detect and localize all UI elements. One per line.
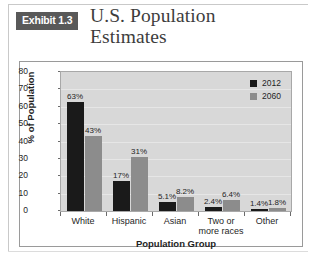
bar-2060-3 — [223, 200, 240, 211]
x-axis-label-4: Other — [244, 216, 290, 226]
legend-item-2060: 2060 — [250, 91, 281, 101]
y-tick-label: 80 — [0, 66, 28, 76]
bar-data-label: 8.2% — [172, 187, 199, 196]
plot-area: 63%43%17%31%5.1%8.2%2.4%6.4%1.4%1.8% 201… — [60, 71, 292, 212]
bar-2012-1 — [113, 181, 130, 211]
y-tick-label: 10 — [0, 188, 28, 198]
bar-2060-4 — [269, 208, 286, 211]
gridline — [61, 124, 291, 125]
bar-2012-4 — [251, 209, 268, 211]
legend-label: 2060 — [262, 91, 281, 101]
bar-data-label: 43% — [80, 126, 107, 135]
y-tick-label: 30 — [0, 153, 28, 163]
exhibit-header: Exhibit 1.3 U.S. Population Estimates — [16, 10, 304, 54]
y-tick-label: 70 — [0, 83, 28, 93]
bar-chart: % of Population 80706050403020100 63%43%… — [19, 61, 303, 247]
gridline — [61, 107, 291, 108]
bar-data-label: 63% — [62, 92, 89, 101]
legend-label: 2012 — [262, 78, 281, 88]
x-axis-label-0: White — [60, 216, 106, 226]
legend-swatch-icon — [250, 93, 257, 100]
x-axis-title: Population Group — [60, 238, 292, 249]
y-tick-label: 20 — [0, 170, 28, 180]
bar-data-label: 1.8% — [264, 198, 291, 207]
x-tick-mark — [290, 212, 291, 216]
x-axis-label-line-1: Hispanic — [106, 216, 152, 226]
x-axis-label-2: Asian — [152, 216, 198, 226]
x-axis-label-line-1: White — [60, 216, 106, 226]
legend-swatch-icon — [250, 80, 257, 87]
chart-legend: 20122060 — [250, 78, 281, 104]
bar-2012-3 — [205, 207, 222, 211]
x-tick-mark — [60, 212, 61, 216]
page-title: U.S. Population Estimates — [90, 6, 305, 47]
x-axis-label-line-1: Asian — [152, 216, 198, 226]
bar-data-label: 31% — [126, 147, 153, 156]
x-axis-label-1: Hispanic — [106, 216, 152, 226]
x-axis-label-line-2: more races — [198, 226, 244, 236]
page-title-line-1: U.S. Population — [90, 6, 305, 27]
frame-bottom-rule — [8, 251, 308, 252]
x-axis-label-line-1: Two or — [198, 216, 244, 226]
exhibit-badge: Exhibit 1.3 — [16, 12, 78, 30]
bar-data-label: 6.4% — [218, 190, 245, 199]
bar-2060-0 — [85, 136, 102, 211]
y-tick-label: 40 — [0, 136, 28, 146]
y-tick-label: 50 — [0, 118, 28, 128]
bar-2012-0 — [67, 102, 84, 211]
bar-2060-2 — [177, 197, 194, 211]
exhibit-figure: Exhibit 1.3 U.S. Population Estimates % … — [0, 0, 311, 264]
y-tick-label: 60 — [0, 101, 28, 111]
bar-2060-1 — [131, 157, 148, 211]
y-tick-label: 0 — [0, 205, 28, 215]
x-axis-label-line-1: Other — [244, 216, 290, 226]
legend-item-2012: 2012 — [250, 78, 281, 88]
x-axis-label-3: Two ormore races — [198, 216, 244, 236]
page-title-line-2: Estimates — [90, 27, 305, 48]
bar-2012-2 — [159, 202, 176, 211]
